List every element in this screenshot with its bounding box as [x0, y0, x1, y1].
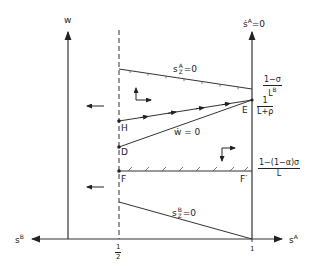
- mid-frac-num: 1: [257, 97, 273, 107]
- sA-axis-sup: A: [294, 233, 298, 240]
- sBZ-base: s: [172, 208, 177, 218]
- point-Fprime-label: F′: [240, 175, 247, 184]
- point-D-label: D: [121, 148, 128, 157]
- sBZ-eq: =0: [183, 208, 196, 218]
- sB-axis-label: sB: [15, 234, 24, 245]
- point-F-label: F: [121, 175, 126, 184]
- F-Fprime-hatches: [128, 167, 248, 171]
- low-frac-num: 1−(1−α)σ: [258, 159, 300, 169]
- tick-one-label: 1: [250, 246, 254, 253]
- sBZ-zero-label: sBZ=0: [172, 207, 196, 219]
- w-axis-label: w: [64, 16, 71, 25]
- sA-dot-eq: =0: [252, 19, 265, 29]
- point-H-label: H: [121, 124, 128, 133]
- wdot-zero-line: [119, 100, 252, 147]
- sAZ-base: s: [173, 64, 178, 74]
- label-one-minus-alpha-sigma-over-L: 1−(1−α)σ L: [258, 159, 300, 178]
- sAZ-sub: Z: [179, 69, 183, 75]
- phase-diagram-canvas: [0, 0, 316, 269]
- tick-half-num: 1: [115, 244, 121, 253]
- point-E: [250, 98, 253, 101]
- low-frac-den: L: [258, 169, 300, 178]
- top-frac-num: 1−σ: [263, 76, 282, 86]
- sA-dot-zero-label: ṡA=0: [243, 18, 265, 29]
- label-one-minus-sigma-over-LB: 1−σ LB: [263, 76, 282, 98]
- tick-half-den: 2: [115, 253, 121, 261]
- mid-frac-den: L+ρ: [257, 107, 273, 116]
- top-frac-den-sup: B: [273, 86, 277, 93]
- label-one-over-L-plus-rho: 1 L+ρ: [257, 97, 273, 116]
- trajectory-H-E: [119, 100, 252, 121]
- point-E-label: E: [242, 106, 248, 115]
- point-F: [117, 169, 121, 173]
- direction-arrows-lower: [222, 148, 235, 161]
- sAZ-eq: =0: [184, 64, 197, 74]
- wdot-zero-label: ẇ = 0: [174, 128, 200, 137]
- direction-arrows-upper: [136, 88, 151, 100]
- sB-axis-sup: B: [20, 233, 24, 240]
- tick-half-label: 1 2: [115, 244, 121, 261]
- sA-axis-label: sA: [289, 234, 298, 245]
- sAZ-zero-label: sAZ=0: [173, 63, 197, 75]
- sBZ-sub: Z: [178, 213, 182, 219]
